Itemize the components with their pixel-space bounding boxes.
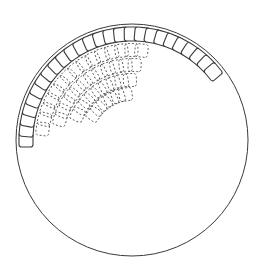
dashed-tile: [123, 73, 136, 86]
dashed-tile: [94, 47, 111, 64]
dashed-tile: [69, 106, 86, 123]
figure-canvas: [0, 0, 263, 266]
dashed-tile: [90, 99, 108, 117]
dashed-tile: [73, 98, 91, 116]
dashed-tile: [84, 50, 101, 67]
dashed-tile: [125, 43, 138, 56]
dashed-tile: [100, 61, 116, 77]
dashed-tile: [134, 43, 148, 57]
circular-tile-diagram: [0, 0, 263, 266]
dashed-tile: [39, 101, 56, 118]
dashed-tile: [85, 105, 103, 123]
dashed-tile-field-group: [35, 43, 148, 136]
dashed-tile: [128, 58, 141, 71]
dashed-tile: [52, 111, 68, 127]
dashed-tile: [119, 58, 133, 72]
